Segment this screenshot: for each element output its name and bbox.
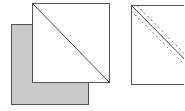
left-figure (12, 4, 110, 105)
right-figure (132, 6, 185, 91)
folding-diagram (0, 0, 184, 111)
